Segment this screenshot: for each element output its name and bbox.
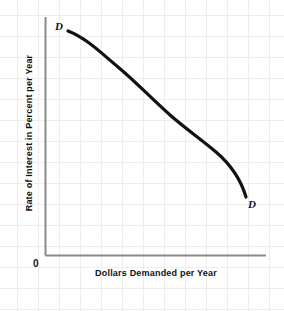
curve-end-label: D — [248, 198, 256, 210]
plot-area — [0, 0, 284, 311]
x-axis-label: Dollars Demanded per Year — [45, 268, 267, 278]
curve-start-label: D — [55, 20, 63, 32]
y-axis-label: Rate of Interest in Percent per Year — [24, 48, 34, 218]
demand-curve-line — [68, 31, 246, 197]
demand-curve-figure: Rate of Interest in Percent per Year Dol… — [0, 0, 284, 311]
origin-label: 0 — [33, 258, 39, 269]
